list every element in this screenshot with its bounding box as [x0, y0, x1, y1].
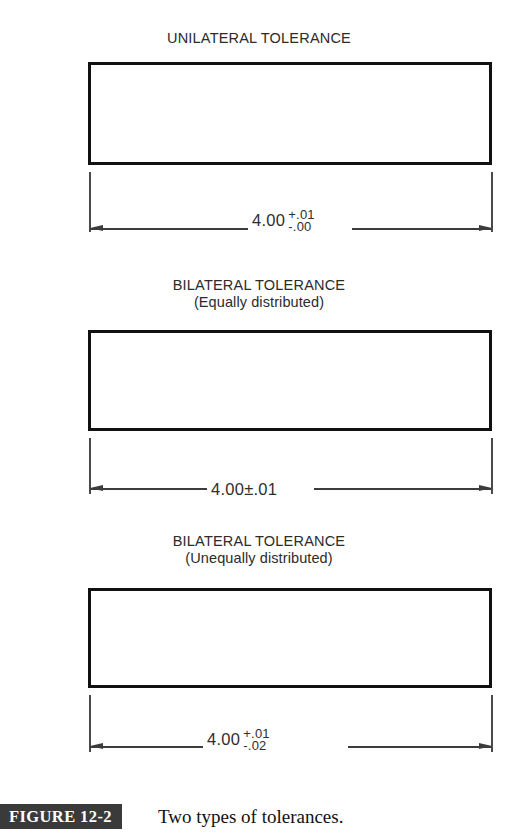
dimension-value-bilateral-equal: 4.00 ±.01: [211, 481, 277, 498]
dimension-line-left-segment: [90, 488, 207, 490]
dimension-nominal: 4.00: [252, 212, 285, 229]
dimension-value-bilateral-unequal: 4.00 +.01 -.02: [207, 728, 270, 751]
tolerance-lower: -.02: [243, 739, 269, 751]
block-title: BILATERAL TOLERANCE: [0, 277, 518, 294]
extension-line-left: [89, 172, 91, 232]
block-subtitle: (Equally distributed): [0, 294, 518, 311]
dimension-plus-minus: ±.01: [244, 481, 277, 498]
block-title: BILATERAL TOLERANCE: [0, 533, 518, 550]
dimension-line-right-segment: [352, 228, 491, 230]
dimension-arrow-left: [90, 743, 103, 749]
block-subtitle: (Unequally distributed): [0, 550, 518, 567]
dimension-line-right-segment: [348, 746, 491, 748]
dimension-line-left-segment: [90, 228, 248, 230]
dimension-arrow-right: [479, 485, 492, 491]
dimension-nominal: 4.00: [211, 481, 244, 498]
tolerance-block-unilateral: UNILATERAL TOLERANCE: [0, 30, 518, 47]
part-outline-rectangle: [88, 588, 492, 688]
tolerance-lower: -.00: [288, 220, 314, 232]
dimension-tolerance-stack: +.01 -.02: [243, 728, 269, 751]
dimension-arrow-right: [479, 225, 492, 231]
part-outline-rectangle: [88, 62, 492, 165]
dimension-value-unilateral: 4.00 +.01 -.00: [252, 209, 315, 232]
part-outline-rectangle: [88, 330, 492, 431]
block-title: UNILATERAL TOLERANCE: [0, 30, 518, 47]
figure-sheet: UNILATERAL TOLERANCE 4.00 +.01 -.00 BILA…: [0, 0, 518, 833]
dimension-arrow-left: [90, 225, 103, 231]
figure-caption-text: Two types of tolerances.: [158, 806, 343, 828]
tolerance-block-bilateral-unequal: BILATERAL TOLERANCE (Unequally distribut…: [0, 533, 518, 567]
figure-caption-row: FIGURE 12-2 Two types of tolerances.: [0, 800, 518, 833]
dimension-line-left-segment: [90, 746, 203, 748]
dimension-tolerance-stack: +.01 -.00: [288, 209, 314, 232]
tolerance-block-bilateral-equal: BILATERAL TOLERANCE (Equally distributed…: [0, 277, 518, 311]
dimension-line-right-segment: [314, 488, 491, 490]
dimension-arrow-right: [479, 743, 492, 749]
extension-line-right: [491, 172, 493, 232]
figure-number-badge: FIGURE 12-2: [0, 804, 122, 829]
dimension-nominal: 4.00: [207, 731, 240, 748]
dimension-arrow-left: [90, 485, 103, 491]
